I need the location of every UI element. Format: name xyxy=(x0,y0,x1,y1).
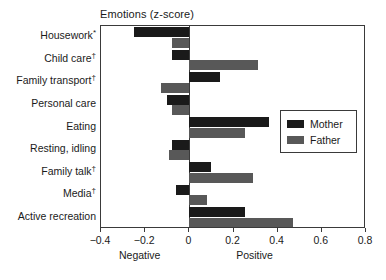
bar-media-father xyxy=(189,195,207,205)
category-label-mark: * xyxy=(93,28,96,37)
bar-media-mother xyxy=(176,185,189,195)
bar-family-transport-father xyxy=(161,83,190,93)
x-tick-label-3: 0.2 xyxy=(213,234,253,246)
legend-swatch-father-icon xyxy=(287,136,304,144)
chart-title: Emotions (z-score) xyxy=(100,8,194,20)
category-label-text: Eating xyxy=(66,120,96,132)
category-label-eating: Eating xyxy=(0,120,96,132)
category-label-text: Housework xyxy=(40,29,93,41)
x-tick-label-2: 0 xyxy=(168,234,208,246)
emotions-z-score-bar-chart: Emotions (z-score) Housework*Child care†… xyxy=(0,0,386,280)
category-label-text: Family talk xyxy=(41,165,91,177)
x-tick-label-5: 0.6 xyxy=(301,234,341,246)
x-tick-0 xyxy=(100,228,101,232)
category-label-media: Media† xyxy=(0,187,96,199)
category-label-mark: † xyxy=(92,163,96,172)
bar-housework-father xyxy=(172,38,190,48)
bar-housework-mother xyxy=(134,27,189,37)
axis-positive-label: Positive xyxy=(210,249,300,261)
x-tick-4 xyxy=(277,228,278,232)
category-label-text: Active recreation xyxy=(18,210,96,222)
x-tick-label-1: −0.2 xyxy=(124,234,164,246)
x-tick-6 xyxy=(365,228,366,232)
legend-label-father: Father xyxy=(310,134,340,146)
bar-resting-idling-mother xyxy=(172,140,190,150)
category-label-text: Media xyxy=(63,187,92,199)
category-label-mark: † xyxy=(92,186,96,195)
category-label-personal-care: Personal care xyxy=(0,97,96,109)
category-label-text: Child care xyxy=(44,52,91,64)
x-tick-label-4: 0.4 xyxy=(257,234,297,246)
legend: Mother Father xyxy=(280,110,357,153)
bar-family-transport-mother xyxy=(189,72,220,82)
category-label-family-transport: Family transport† xyxy=(0,74,96,86)
x-tick-2 xyxy=(188,228,189,232)
bar-eating-mother xyxy=(189,117,269,127)
bar-personal-care-father xyxy=(172,105,190,115)
legend-label-mother: Mother xyxy=(310,118,343,130)
bar-family-talk-mother xyxy=(189,162,211,172)
legend-swatch-mother-icon xyxy=(287,120,304,128)
category-label-housework: Housework* xyxy=(0,29,96,41)
category-label-text: Resting, idling xyxy=(30,142,96,154)
category-label-text: Personal care xyxy=(31,97,96,109)
category-label-mark: † xyxy=(92,73,96,82)
axis-negative-label: Negative xyxy=(95,249,185,261)
x-tick-label-0: −0.4 xyxy=(80,234,120,246)
category-label-text: Family transport xyxy=(16,74,91,86)
bar-active-recreation-mother xyxy=(189,207,244,217)
category-label-resting-idling: Resting, idling xyxy=(0,142,96,154)
category-label-family-talk: Family talk† xyxy=(0,165,96,177)
bar-eating-father xyxy=(189,128,244,138)
x-tick-3 xyxy=(233,228,234,232)
bar-child-care-mother xyxy=(172,50,190,60)
category-label-child-care: Child care† xyxy=(0,52,96,64)
x-tick-5 xyxy=(321,228,322,232)
bar-family-talk-father xyxy=(189,173,253,183)
legend-item-father: Father xyxy=(287,132,356,148)
x-tick-1 xyxy=(144,228,145,232)
legend-item-mother: Mother xyxy=(287,116,356,132)
x-tick-label-6: 0.8 xyxy=(345,234,385,246)
category-label-mark: † xyxy=(92,50,96,59)
bar-active-recreation-father xyxy=(189,218,293,228)
category-label-active-recreation: Active recreation xyxy=(0,210,96,222)
bar-resting-idling-father xyxy=(169,150,189,160)
bar-personal-care-mother xyxy=(167,95,189,105)
bar-child-care-father xyxy=(189,60,257,70)
